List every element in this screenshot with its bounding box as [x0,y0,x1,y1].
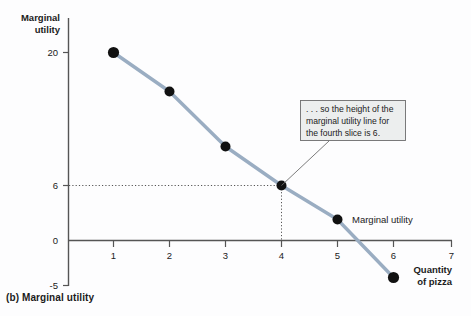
x-tick-label-6: 6 [391,250,396,261]
x-axis-title-line2: of pizza [417,276,453,287]
data-point-marker [165,87,175,97]
figure-caption: (b) Marginal utility [6,292,94,303]
x-tick-label-5: 5 [335,250,340,261]
x-tick-label-3: 3 [223,250,228,261]
callout-text-line1: . . . so the height of the [306,104,394,114]
y-tick-label-6: 6 [53,180,58,191]
x-tick-label-1: 1 [111,250,116,261]
x-tick-label-2: 2 [167,250,172,261]
data-point-marker [108,47,119,58]
callout-leader-line [282,141,330,186]
y-tick-label-minus5: -5 [50,280,58,291]
data-point-marker [388,272,399,283]
y-tick-label-20: 20 [47,47,58,58]
marginal-utility-chart: 20 6 0 -5 Marginal utility 1 2 3 4 5 6 7… [0,0,471,316]
callout-text-line3: the fourth slice is 6. [306,128,380,138]
callout-text-line2: marginal utility line for [306,116,389,126]
data-point-marker [221,142,231,152]
x-axis-title-line1: Quantity [413,264,452,275]
y-axis-title-line1: Marginal [21,12,60,23]
y-axis-title-line2: utility [35,24,61,35]
series-label-marginal-utility: Marginal utility [352,214,413,225]
data-point-marker [333,215,343,225]
x-tick-label-4: 4 [279,250,284,261]
x-tick-label-7: 7 [449,250,454,261]
marginal-utility-line [114,53,394,278]
y-tick-label-0: 0 [53,235,58,246]
